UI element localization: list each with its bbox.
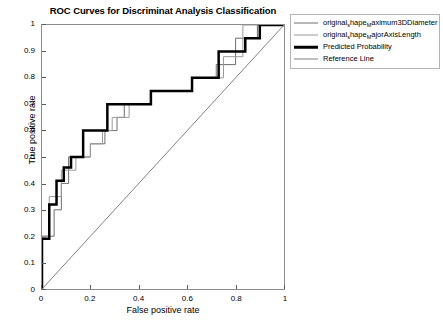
y-tick-mark: [42, 289, 46, 290]
x-tick-label: 0.4: [124, 294, 154, 303]
y-tick-mark: [42, 184, 46, 185]
chart-title: ROC Curves for Discriminat Analysis Clas…: [41, 5, 285, 16]
x-tick-mark: [236, 285, 237, 289]
x-tick-mark: [90, 285, 91, 289]
legend-item-2[interactable]: originalshapeMajorAxisLength: [291, 29, 439, 41]
matlab-figure-window: ROC Curves for Discriminat Analysis Clas…: [0, 0, 443, 326]
roc-curves-svg: [42, 25, 284, 289]
x-axis-label: False positive rate: [41, 305, 285, 315]
x-tick-label: 0.6: [172, 294, 202, 303]
y-tick-label: 0.1: [7, 258, 35, 267]
y-tick-mark: [42, 51, 46, 52]
x-tick-mark: [139, 285, 140, 289]
series-group: [42, 25, 284, 289]
x-tick-mark: [284, 285, 285, 289]
x-tick-label: 1: [270, 294, 300, 303]
y-tick-mark: [42, 237, 46, 238]
legend-line-sample-icon: [293, 42, 319, 52]
x-tick-label: 0.2: [75, 294, 105, 303]
legend-item-3[interactable]: Predicted Probability: [291, 41, 439, 53]
legend-line-sample-icon: [293, 54, 319, 64]
legend-item-label: originalshapeMaximum3DDiameter: [323, 18, 438, 28]
y-tick-mark: [42, 24, 46, 25]
legend-item-label: Predicted Probability: [323, 42, 392, 52]
x-tick-mark: [41, 285, 42, 289]
chart-legend[interactable]: originalshapeMaximum3DDiameteroriginalsh…: [290, 14, 440, 69]
y-tick-mark: [42, 77, 46, 78]
y-tick-mark: [42, 130, 46, 131]
x-tick-label: 0.8: [221, 294, 251, 303]
y-tick-label: 0.2: [7, 232, 35, 241]
x-tick-label: 0: [26, 294, 56, 303]
legend-item-4[interactable]: Reference Line: [291, 53, 439, 65]
legend-item-1[interactable]: originalshapeMaximum3DDiameter: [291, 17, 439, 29]
y-tick-mark: [42, 263, 46, 264]
y-tick-label: 1: [7, 19, 35, 28]
y-tick-mark: [42, 157, 46, 158]
y-tick-label: 0: [7, 285, 35, 294]
legend-item-label: Reference Line: [323, 54, 374, 64]
legend-item-label: originalshapeMajorAxisLength: [323, 30, 421, 40]
legend-line-sample-icon: [293, 18, 319, 28]
plot-area: [41, 24, 285, 290]
legend-line-sample-icon: [293, 30, 319, 40]
y-axis-label: True positive rate: [27, 50, 37, 210]
x-tick-mark: [187, 285, 188, 289]
y-tick-mark: [42, 210, 46, 211]
y-tick-mark: [42, 104, 46, 105]
